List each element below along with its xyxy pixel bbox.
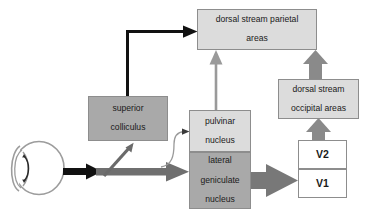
node-v1[interactable]: V1: [298, 169, 347, 198]
node-label-line1: lateral: [198, 156, 241, 166]
eye-globe: [14, 142, 64, 195]
node-label-line1: dorsal stream parietal: [214, 15, 301, 25]
node-label-line2: areas: [214, 34, 301, 44]
node-label: lateral geniculate nucleus: [196, 156, 243, 204]
arrow-lgn-to-v1: [250, 164, 298, 197]
node-label: V2: [314, 149, 331, 161]
node-label-line1: superior: [109, 104, 148, 114]
node-dorsal-stream-parietal-areas[interactable]: dorsal stream parietal areas: [197, 9, 317, 50]
node-label: V1: [314, 178, 331, 190]
arrow-v2-to-occipital: [306, 118, 331, 141]
arrow-colliculus-to-parietal: [128, 26, 198, 97]
node-label-line2: colliculus: [109, 123, 148, 133]
node-v2[interactable]: V2: [298, 140, 347, 169]
node-label-line1: pulvinar: [203, 117, 237, 127]
node-label: dorsal stream parietal areas: [212, 15, 303, 44]
node-label: superior colliculus: [107, 104, 150, 133]
node-label: pulvinar nucleus: [201, 117, 239, 146]
arrow-pulvinar-to-parietal: [210, 50, 223, 110]
node-superior-colliculus[interactable]: superior colliculus: [88, 96, 168, 141]
eye-icon: [12, 142, 64, 195]
arrow-occipital-to-parietal: [303, 50, 328, 80]
node-label-line2: occipital areas: [289, 104, 348, 114]
node-lateral-geniculate-nucleus[interactable]: lateral geniculate nucleus: [189, 152, 251, 209]
node-label-line2: geniculate: [198, 176, 241, 186]
node-label-line2: nucleus: [203, 136, 237, 146]
node-pulvinar-nucleus[interactable]: pulvinar nucleus: [189, 110, 251, 152]
node-label-line3: nucleus: [198, 195, 241, 205]
diagram-canvas: dorsal stream parietal areas superior co…: [0, 0, 376, 220]
node-label: dorsal stream occipital areas: [287, 85, 350, 114]
node-label-line1: dorsal stream: [289, 85, 348, 95]
node-dorsal-stream-occipital-areas[interactable]: dorsal stream occipital areas: [278, 79, 359, 119]
